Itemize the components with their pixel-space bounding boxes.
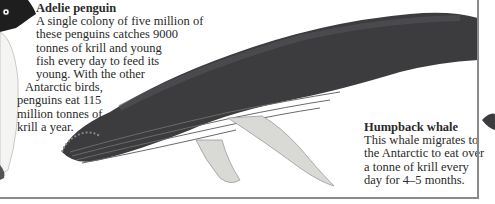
frame-border-bottom	[0, 197, 479, 199]
whale-caption-line: the Antarctic to eat over	[364, 147, 484, 160]
penguin-caption-line: tonnes of krill and young	[36, 42, 203, 55]
illustrated-page: Adelie penguin A single colony of five m…	[0, 0, 495, 204]
penguin-caption-line: penguins eat 115	[17, 94, 203, 107]
penguin-caption-line: these penguins catches 9000	[36, 28, 203, 41]
adelie-penguin-caption: Adelie penguin A single colony of five m…	[36, 2, 203, 134]
penguin-caption-line: million tonnes of	[17, 108, 203, 121]
humpback-whale-caption: Humpback whale This whale migrates to th…	[364, 121, 484, 187]
whale-caption-line: a tonne of krill every	[364, 161, 484, 174]
penguin-caption-line: krill a year.	[17, 121, 203, 134]
frame-border-right	[477, 0, 479, 199]
whale-caption-line: day for 4–5 months.	[364, 174, 484, 187]
